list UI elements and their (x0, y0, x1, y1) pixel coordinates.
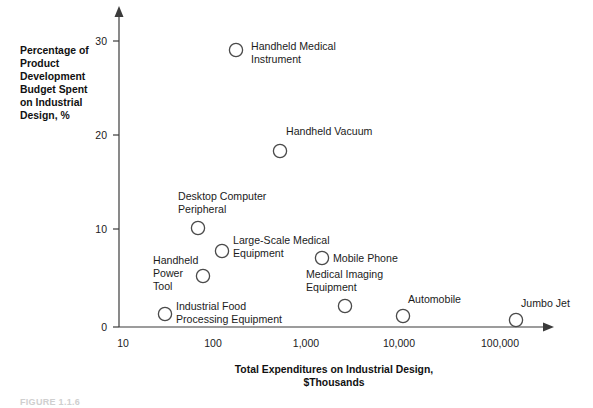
scatter-chart-figure: 30 20 10 0 10 100 1,000 10,000 100,000 P… (0, 0, 593, 408)
y-axis-title-line-5: Design, % (20, 110, 70, 121)
y-axis-title-line-0: Percentage of (20, 45, 89, 56)
data-point-label: Handheld Vacuum (286, 125, 373, 137)
x-tick-label-100000: 100,000 (481, 337, 519, 349)
x-tick-label-100: 100 (204, 337, 222, 349)
y-tick-label-30: 30 (95, 35, 107, 47)
data-point-label: Automobile (408, 293, 461, 305)
data-point-label: Mobile Phone (333, 252, 398, 264)
y-axis-title-line-4: on Industrial (20, 97, 82, 108)
y-tick-label-20: 20 (95, 129, 107, 141)
y-tick-label-0: 0 (101, 321, 107, 333)
x-tick-label-1000: 1,000 (293, 337, 319, 349)
chart-svg: 30 20 10 0 10 100 1,000 10,000 100,000 P… (0, 0, 593, 408)
x-axis-title-line-0: Total Expenditures on Industrial Design, (235, 364, 434, 375)
y-axis-title-line-3: Budget Spent (20, 84, 88, 95)
figure-caption: FIGURE 1.1.6 (20, 397, 80, 407)
data-point-label: Jumbo Jet (521, 297, 570, 309)
y-axis-title-line-1: Product (20, 58, 60, 69)
y-axis-title-line-2: Development (20, 71, 86, 82)
x-axis-title-line-1: $Thousands (303, 377, 364, 388)
x-tick-label-10: 10 (117, 337, 129, 349)
x-tick-label-10000: 10,000 (383, 337, 415, 349)
y-tick-label-10: 10 (95, 223, 107, 235)
